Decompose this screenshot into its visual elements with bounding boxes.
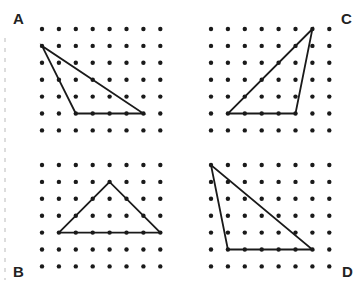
- grid-dot: [276, 27, 280, 31]
- grid-dot: [107, 264, 111, 268]
- grid-dot: [141, 128, 145, 132]
- grid-dot: [276, 44, 280, 48]
- grid-dot: [310, 94, 314, 98]
- grid-dot: [107, 61, 111, 65]
- grid-dot: [260, 94, 264, 98]
- grid-dot: [243, 230, 247, 234]
- grid-dot: [327, 61, 331, 65]
- panel-c-grid: [209, 27, 332, 133]
- grid-dot: [209, 230, 213, 234]
- grid-dot: [327, 230, 331, 234]
- grid-dot: [124, 214, 128, 218]
- grid-dot: [40, 94, 44, 98]
- grid-dot: [74, 180, 78, 184]
- grid-dot: [327, 128, 331, 132]
- panel-label-a: A: [13, 11, 24, 26]
- grid-dot: [243, 78, 247, 82]
- grid-dot: [243, 264, 247, 268]
- grid-dot: [40, 61, 44, 65]
- grid-dot: [141, 264, 145, 268]
- grid-dot: [158, 78, 162, 82]
- grid-dot: [40, 27, 44, 31]
- grid-dot: [141, 94, 145, 98]
- grid-dot: [91, 247, 95, 251]
- grid-dot: [243, 214, 247, 218]
- grid-dot: [260, 180, 264, 184]
- panel-a-grid: [40, 27, 163, 133]
- grid-dot: [57, 247, 61, 251]
- grid-dot: [310, 44, 314, 48]
- grid-dot: [40, 264, 44, 268]
- grid-dot: [243, 180, 247, 184]
- grid-dot: [226, 78, 230, 82]
- grid-dot: [107, 78, 111, 82]
- panel-b-grid: [40, 163, 163, 269]
- grid-dot: [124, 163, 128, 167]
- grid-dot: [74, 264, 78, 268]
- grid-dot: [293, 128, 297, 132]
- grid-dot: [310, 197, 314, 201]
- grid-dot: [124, 247, 128, 251]
- grid-dot: [226, 128, 230, 132]
- grid-dot: [276, 230, 280, 234]
- grid-dot: [124, 94, 128, 98]
- grid-dot: [209, 214, 213, 218]
- grid-dot: [57, 111, 61, 115]
- grid-dot: [57, 27, 61, 31]
- grid-dot: [226, 264, 230, 268]
- grid-dot: [226, 230, 230, 234]
- grid-dot: [40, 128, 44, 132]
- grid-dot: [74, 94, 78, 98]
- grid-dot: [91, 94, 95, 98]
- grid-dot: [141, 44, 145, 48]
- grid-dot: [209, 197, 213, 201]
- grid-dot: [40, 230, 44, 234]
- grid-dot: [209, 94, 213, 98]
- grid-dot: [310, 230, 314, 234]
- grid-dot: [91, 180, 95, 184]
- grid-dot: [209, 27, 213, 31]
- grid-dot: [209, 61, 213, 65]
- grid-dot: [276, 180, 280, 184]
- grid-dot: [40, 197, 44, 201]
- grid-dot: [107, 44, 111, 48]
- grid-dot: [74, 197, 78, 201]
- grid-dot: [293, 61, 297, 65]
- grid-dot: [276, 128, 280, 132]
- grid-dot: [243, 27, 247, 31]
- panel-label-d: D: [342, 264, 353, 279]
- grid-dot: [226, 214, 230, 218]
- grid-dot: [327, 214, 331, 218]
- grid-dot: [40, 78, 44, 82]
- grid-dot: [260, 27, 264, 31]
- grid-dot: [327, 197, 331, 201]
- grid-dot: [226, 27, 230, 31]
- grid-dot: [209, 264, 213, 268]
- grid-dot: [107, 214, 111, 218]
- grid-dot: [57, 180, 61, 184]
- grid-dot: [209, 128, 213, 132]
- grid-dot: [276, 214, 280, 218]
- grid-dot: [124, 27, 128, 31]
- grid-dot: [327, 44, 331, 48]
- grid-dot: [107, 247, 111, 251]
- grid-dot: [226, 197, 230, 201]
- grid-dot: [226, 61, 230, 65]
- panel-label-b: B: [13, 264, 24, 279]
- grid-dot: [57, 61, 61, 65]
- grid-dot: [310, 78, 314, 82]
- triangle-c: [228, 29, 313, 114]
- grid-dot: [124, 180, 128, 184]
- grid-dot: [209, 44, 213, 48]
- grid-dot: [57, 128, 61, 132]
- grid-dot: [243, 163, 247, 167]
- grid-dot: [243, 197, 247, 201]
- grid-dot: [141, 247, 145, 251]
- grid-dot: [293, 180, 297, 184]
- grid-dot: [327, 78, 331, 82]
- grid-dot: [276, 94, 280, 98]
- grid-dot: [57, 94, 61, 98]
- triangle-d: [211, 165, 312, 250]
- grid-dot: [40, 180, 44, 184]
- grid-dot: [260, 61, 264, 65]
